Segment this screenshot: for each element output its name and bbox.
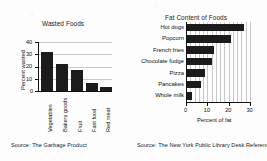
xtick-label-fruit: Fruit [77,121,83,132]
xtick-10 [207,103,208,106]
gridline-22 [233,22,234,102]
gridline-12 [212,22,213,102]
gridline-16 [220,22,221,102]
xtick-label-vegetables: Vegetables [47,104,53,132]
xtick-label-30: 30 [247,107,253,113]
bar-pancakes [186,81,201,89]
plot-area [38,42,112,91]
ytick-label-chocolate-fudge: Chocolate fudge [133,58,184,64]
ytick-label-pizza: Pizza [133,70,184,76]
ytick-label-40: 40 [26,39,32,45]
gridline-40 [38,42,112,43]
x-axis-line [186,102,251,103]
ytick-label-popcorn: Popcorn [133,35,184,41]
bar-bakery-goods [56,64,68,91]
ytick-label-whole-milk: Whole milk [133,92,184,98]
gridline-18 [224,22,225,102]
gridline-20 [229,22,230,102]
chart-title: Wasted Foods [42,20,84,27]
ytick-10 [35,79,38,80]
chart-title: Fat Content of Foods [165,14,227,21]
bar-chocolate-fudge [186,58,212,66]
ytick-label-0: 0 [30,88,33,94]
xtick-0 [186,103,187,106]
plot-area [186,22,250,102]
ytick-30 [35,54,38,55]
xtick-30 [250,103,251,106]
ytick-label-french-fries: French fries [133,47,184,53]
xtick-label-red-meat: Red meat [105,108,111,132]
ytick-20 [35,67,38,68]
bar-vegetables [41,52,53,91]
ytick-label-pancakes: Pancakes [133,81,184,87]
scanned-figure-page: Wasted Foods Percent wasted 40 30 [0,0,267,161]
ytick-label-10: 10 [26,76,32,82]
source-note: Source: The Garbage Product [11,142,87,148]
chart-fat-content-of-foods: Fat Content of Foods Hot dogs Popcorn Fr… [133,0,267,161]
x-axis-title: Percent of fat [197,117,231,123]
ytick-40 [35,42,38,43]
y-axis-line [38,42,39,92]
ytick-label-hot-dogs: Hot dogs [133,24,184,30]
gridline-14 [216,22,217,102]
bar-fast-food [86,83,98,91]
y-axis-line [186,22,187,102]
x-axis-line [38,91,112,92]
bar-pizza [186,69,205,77]
bar-hot-dogs [186,24,244,32]
chart-wasted-foods: Wasted Foods Percent wasted 40 30 [0,0,133,161]
xtick-label-20: 20 [225,107,231,113]
xtick-label-0: 0 [184,107,187,113]
ytick-label-30: 30 [26,51,32,57]
xtick-label-fast-food: Fast food [91,109,97,132]
bar-fruit [71,70,83,91]
gridline-26 [241,22,242,102]
xtick-label-bakery-goods: Bakery goods [62,98,68,132]
gridline-30 [250,22,251,102]
ytick-label-20: 20 [26,63,32,69]
source-note: Source: The New York Public Library Desk… [137,142,267,148]
bar-popcorn [186,35,231,43]
xtick-label-10: 10 [204,107,210,113]
bar-french-fries [186,46,214,54]
xtick-20 [229,103,230,106]
gridline-28 [246,22,247,102]
gridline-24 [237,22,238,102]
ytick-0 [35,91,38,92]
